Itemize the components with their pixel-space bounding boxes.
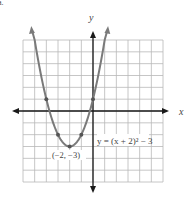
data-point [91, 97, 95, 101]
data-point [68, 145, 72, 149]
x-axis-label: x [178, 106, 184, 117]
curve-right-arrow-icon [104, 26, 110, 34]
x-axis-right-arrow-icon [162, 108, 169, 114]
y-axis-label: y [88, 12, 94, 23]
y-axis-down-arrow-icon [90, 186, 96, 193]
data-point [56, 133, 60, 137]
data-point [79, 133, 83, 137]
problem-label: a. [0, 0, 4, 7]
curve-left-arrow-icon [29, 26, 35, 34]
x-axis-left-arrow-icon [12, 108, 19, 114]
vertex-label: (−2, −3) [52, 150, 80, 160]
y-axis-up-arrow-icon [90, 31, 96, 38]
equation-label: y = (x + 2)² − 3 [97, 136, 153, 146]
parabola-graph: a. x y y = (x + 2)² − 3 (−2, −3) [0, 0, 193, 201]
data-point [44, 97, 48, 101]
